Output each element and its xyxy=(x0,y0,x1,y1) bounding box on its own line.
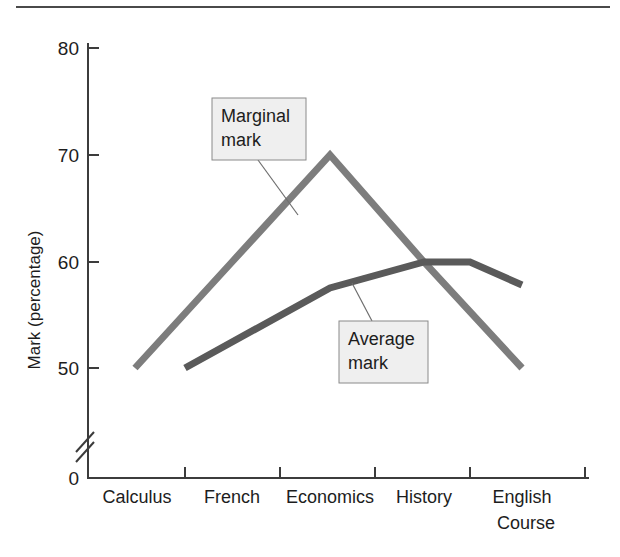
x-axis-title: Course xyxy=(497,513,555,533)
x-label-calculus: Calculus xyxy=(102,487,171,507)
line-chart-canvas: Mark (percentage) 80 70 60 50 0 Calculus… xyxy=(0,0,620,557)
y-tick-label-80: 80 xyxy=(58,38,79,59)
callout-leader-average xyxy=(352,283,372,321)
y-tick-label-70: 70 xyxy=(58,145,79,166)
y-axis-break-slash-2 xyxy=(76,442,94,462)
callout-average-line1: Average xyxy=(348,329,415,349)
x-label-english: English xyxy=(492,487,551,507)
chart-figure: Mark (percentage) 80 70 60 50 0 Calculus… xyxy=(0,0,620,557)
y-axis-break-slash-1 xyxy=(76,432,94,452)
y-tick-label-0: 0 xyxy=(68,468,79,489)
callout-average-line2: mark xyxy=(348,353,389,373)
x-label-history: History xyxy=(396,487,452,507)
y-tick-label-60: 60 xyxy=(58,252,79,273)
callout-marginal-line2: mark xyxy=(221,130,262,150)
x-label-economics: Economics xyxy=(286,487,374,507)
y-axis-title: Mark (percentage) xyxy=(25,231,44,370)
y-tick-label-50: 50 xyxy=(58,358,79,379)
x-label-french: French xyxy=(204,487,260,507)
callout-marginal-line1: Marginal xyxy=(221,106,290,126)
